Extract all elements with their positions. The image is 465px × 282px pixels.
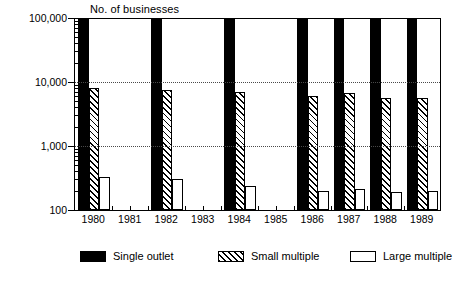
x-axis-label-1982: 1982 — [148, 213, 185, 225]
x-axis-label-1983: 1983 — [185, 213, 222, 225]
legend-label: Single outlet — [113, 250, 174, 262]
bar-1987-large — [355, 189, 366, 210]
x-axis-boundary-tick — [185, 206, 186, 210]
hatched-swatch — [218, 251, 244, 262]
bar-1986-single — [297, 18, 308, 210]
bar-1988-large — [391, 192, 402, 210]
x-axis-label-1989: 1989 — [404, 213, 441, 225]
y-axis-minor-tick — [75, 156, 80, 157]
y-axis-major-tick — [68, 210, 74, 211]
bar-1987-small — [344, 93, 355, 210]
bar-1984-single — [224, 18, 235, 210]
bar-1980-small — [89, 88, 100, 210]
bar-1986-large — [318, 191, 329, 210]
x-axis-label-1985: 1985 — [258, 213, 295, 225]
legend-label: Small multiple — [251, 250, 319, 262]
x-axis-label-1981: 1981 — [112, 213, 149, 225]
y-axis-minor-tick — [75, 152, 80, 153]
bar-1988-single — [370, 18, 381, 210]
x-axis-boundary-tick — [258, 206, 259, 210]
gridline — [75, 146, 440, 147]
y-axis-title: No. of businesses — [90, 3, 179, 15]
chart-legend: Single outletSmall multipleLarge multipl… — [70, 247, 450, 269]
x-axis-boundary-tick — [331, 206, 332, 210]
y-axis-tick-label: 10,000 — [35, 76, 67, 88]
x-axis-tick — [276, 206, 277, 211]
x-axis-boundary-tick — [148, 206, 149, 210]
bar-1980-large — [99, 177, 110, 210]
bar-1989-small — [417, 98, 428, 210]
y-axis-minor-tick — [75, 171, 80, 172]
y-axis-minor-tick — [75, 88, 80, 89]
x-axis-label-1986: 1986 — [294, 213, 331, 225]
bar-1982-small — [162, 90, 173, 210]
solid-black-swatch — [80, 251, 106, 262]
bar-1989-large — [428, 191, 439, 210]
bar-1988-small — [381, 98, 392, 210]
x-axis-boundary-tick — [294, 206, 295, 210]
y-axis-minor-tick — [75, 191, 80, 192]
y-axis-tick-label: 100 — [49, 204, 67, 216]
y-axis-minor-tick — [75, 160, 80, 161]
x-axis-boundary-tick — [112, 206, 113, 210]
y-axis-minor-tick — [75, 24, 80, 25]
bar-1982-large — [172, 179, 183, 210]
y-axis-minor-tick — [75, 32, 80, 33]
y-axis-minor-tick — [75, 165, 80, 166]
x-axis-boundary-tick — [367, 206, 368, 210]
y-axis-minor-tick — [75, 37, 80, 38]
x-axis-boundary-tick — [221, 206, 222, 210]
y-axis-minor-tick — [75, 28, 80, 29]
bars-layer — [75, 18, 440, 210]
x-axis-tick — [203, 206, 204, 211]
x-axis-label-1980: 1980 — [75, 213, 112, 225]
x-axis-boundary-tick — [404, 206, 405, 210]
bar-1984-large — [245, 186, 256, 210]
legend-item-small: Small multiple — [218, 247, 319, 265]
bar-1984-small — [235, 92, 246, 210]
bar-1987-single — [334, 18, 345, 210]
x-axis-label-1984: 1984 — [221, 213, 258, 225]
legend-label: Large multiple — [383, 250, 452, 262]
x-axis-label-1988: 1988 — [367, 213, 404, 225]
y-axis-minor-tick — [75, 92, 80, 93]
y-axis: 1001,00010,000100,000 — [0, 0, 72, 282]
y-axis-minor-tick — [75, 63, 80, 64]
y-axis-minor-tick — [75, 179, 80, 180]
bar-chart: No. of businesses 1001,00010,000100,000 … — [0, 0, 465, 282]
y-axis-major-tick — [68, 18, 74, 19]
y-axis-minor-tick — [75, 115, 80, 116]
y-axis-tick-label: 1,000 — [41, 140, 67, 152]
y-axis-minor-tick — [75, 149, 80, 150]
bar-1989-single — [407, 18, 418, 210]
y-axis-minor-tick — [75, 96, 80, 97]
bar-1980-single — [78, 18, 89, 210]
y-axis-minor-tick — [75, 51, 80, 52]
white-outline-swatch — [350, 251, 376, 262]
bar-1986-small — [308, 96, 319, 210]
y-axis-tick-label: 100,000 — [29, 12, 67, 24]
y-axis-major-tick — [68, 82, 74, 83]
y-axis-minor-tick — [75, 101, 80, 102]
x-axis-tick — [130, 206, 131, 211]
legend-item-single: Single outlet — [80, 247, 174, 265]
y-axis-minor-tick — [75, 107, 80, 108]
bar-1982-single — [151, 18, 162, 210]
x-axis-label-1987: 1987 — [331, 213, 368, 225]
gridline — [75, 82, 440, 83]
y-axis-minor-tick — [75, 21, 80, 22]
y-axis-minor-tick — [75, 127, 80, 128]
y-axis-minor-tick — [75, 85, 80, 86]
y-axis-major-tick — [68, 146, 74, 147]
y-axis-minor-tick — [75, 43, 80, 44]
legend-item-large: Large multiple — [350, 247, 452, 265]
